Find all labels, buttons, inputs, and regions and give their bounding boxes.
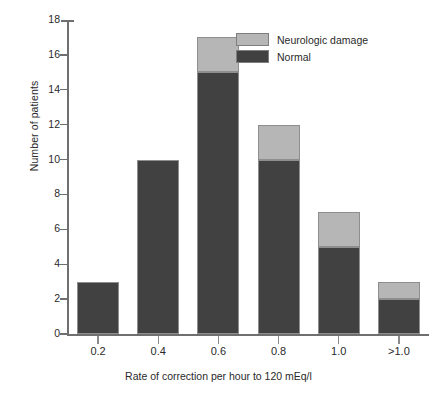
- chart-legend: Neurologic damage Normal: [236, 31, 368, 65]
- legend-swatch-neurologic-damage: [236, 33, 269, 46]
- y-axis-tick-label: 4: [34, 257, 60, 269]
- legend-label-neurologic-damage: Neurologic damage: [277, 34, 368, 46]
- bar-1-0: [318, 212, 360, 334]
- bar-0-2: [77, 282, 119, 334]
- y-axis-tick-label: 10: [34, 153, 60, 165]
- y-axis-tick: [60, 264, 68, 265]
- x-axis-tick-label: 0.2: [68, 345, 128, 357]
- y-axis-tick: [60, 159, 68, 160]
- x-axis-tick: [97, 336, 98, 344]
- bar-segment-neurologic-damage: [318, 212, 360, 247]
- x-axis-tick: [398, 336, 399, 344]
- x-axis-tick-label: >1.0: [369, 345, 429, 357]
- bar-segment-neurologic-damage: [258, 125, 300, 160]
- y-axis-tick-label: 14: [34, 83, 60, 95]
- y-axis-tick-label: 16: [34, 48, 60, 60]
- y-axis-line: [67, 20, 69, 335]
- y-axis-tick: [60, 194, 68, 195]
- y-axis-tick: [60, 54, 68, 55]
- x-axis-tick-label: 0.8: [249, 345, 309, 357]
- y-axis-tick-label: 8: [34, 187, 60, 199]
- x-axis-tick-label: 0.4: [128, 345, 188, 357]
- y-axis-tick-label: 6: [34, 222, 60, 234]
- y-axis-tick: [60, 124, 68, 125]
- legend-item-neurologic-damage: Neurologic damage: [236, 31, 368, 48]
- bar-segment-neurologic-damage: [197, 37, 239, 72]
- legend-label-normal: Normal: [277, 51, 311, 63]
- bar-0-4: [137, 160, 179, 334]
- y-axis-tick: [60, 229, 68, 230]
- y-axis-tick: [60, 89, 68, 90]
- x-axis-tick-label: 1.0: [309, 345, 369, 357]
- stacked-bar-chart: Number of patients 024681012141618 0.20.…: [0, 0, 437, 395]
- y-axis-tick-label: 18: [34, 13, 60, 25]
- bar-segment-normal: [378, 299, 420, 334]
- bar-segment-normal: [318, 247, 360, 334]
- y-axis-tick-label-wrap: 16: [26, 48, 60, 60]
- y-axis-tick-label: 12: [34, 118, 60, 130]
- bar-segment-neurologic-damage: [378, 282, 420, 299]
- y-axis-tick-label-wrap: 8: [26, 187, 60, 199]
- y-axis-tick-label: 2: [34, 292, 60, 304]
- bar-segment-normal: [197, 72, 239, 334]
- y-axis-tick-label-wrap: 0: [26, 327, 60, 339]
- y-axis-tick-label-wrap: 14: [26, 83, 60, 95]
- bar-0-6: [197, 37, 239, 334]
- x-axis-tick: [158, 336, 159, 344]
- y-axis-top-cap: [61, 20, 74, 22]
- y-axis-tick: [60, 333, 68, 334]
- bar-segment-normal: [137, 160, 179, 334]
- y-axis-tick-label-wrap: 10: [26, 153, 60, 165]
- y-axis-tick-label-wrap: 12: [26, 118, 60, 130]
- legend-item-normal: Normal: [236, 48, 368, 65]
- x-axis-tick-label: 0.6: [188, 345, 248, 357]
- bar-0-8: [258, 125, 300, 334]
- y-axis-tick-label-wrap: 2: [26, 292, 60, 304]
- x-axis-tick: [278, 336, 279, 344]
- y-axis-tick-label-wrap: 6: [26, 222, 60, 234]
- legend-swatch-normal: [236, 50, 269, 63]
- x-axis-title: Rate of correction per hour to 120 mEq/l: [0, 370, 437, 382]
- y-axis-tick-label: 0: [34, 327, 60, 339]
- y-axis-tick-label-wrap: 18: [26, 13, 60, 25]
- y-axis-tick-label-wrap: 4: [26, 257, 60, 269]
- bar-segment-normal: [258, 160, 300, 334]
- x-axis-line: [67, 334, 429, 336]
- x-axis-tick: [338, 336, 339, 344]
- bar-segment-normal: [77, 282, 119, 334]
- bar-gt1-0: [378, 282, 420, 334]
- x-axis-tick: [218, 336, 219, 344]
- y-axis-tick: [60, 298, 68, 299]
